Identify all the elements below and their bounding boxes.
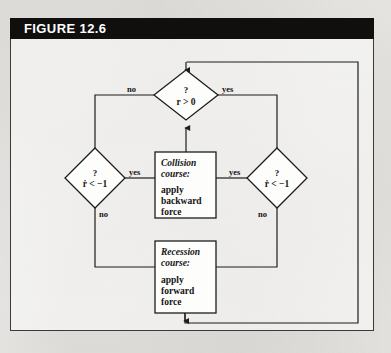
label-top-no: no <box>127 84 136 94</box>
decision-rdot-left-question-mark: ? <box>93 168 98 178</box>
decision-rdot-left[interactable] <box>65 148 125 208</box>
recession-course-body-line1: apply <box>161 275 184 285</box>
decision-rdot-left-expression: ṙ < −1 <box>83 179 108 189</box>
collision-course-title-line1: Collision <box>161 158 196 168</box>
label-left-yes: yes <box>129 167 141 177</box>
label-right-no: no <box>258 209 267 219</box>
decision-r-expression: r > 0 <box>177 97 196 107</box>
decision-r-greater-zero[interactable] <box>154 70 218 120</box>
figure-container: FIGURE 12.6 ? <box>0 0 391 353</box>
flowchart-canvas: ? r > 0 no yes ? ṙ < −1 yes no ? ṙ < −1 … <box>0 0 391 353</box>
recession-course-body-line3: force <box>161 297 181 307</box>
label-right-yes: yes <box>229 167 241 177</box>
recession-course-title-line1: Recession <box>160 247 200 257</box>
collision-course-body-line3: force <box>161 207 181 217</box>
edge-top-no <box>95 95 154 148</box>
decision-r-question-mark: ? <box>184 85 189 95</box>
label-top-yes: yes <box>222 84 234 94</box>
collision-course-title-line2: course: <box>161 169 190 179</box>
collision-course-body-line2: backward <box>161 196 202 206</box>
collision-course-body-line1: apply <box>161 185 184 195</box>
recession-course-title-line2: course: <box>161 258 190 268</box>
decision-rdot-right[interactable] <box>247 148 307 208</box>
label-left-no: no <box>99 209 108 219</box>
edge-right-no <box>216 208 277 267</box>
decision-rdot-right-question-mark: ? <box>275 168 280 178</box>
edge-top-yes <box>218 95 277 148</box>
recession-course-body-line2: forward <box>161 286 195 296</box>
decision-rdot-right-expression: ṙ < −1 <box>265 179 290 189</box>
